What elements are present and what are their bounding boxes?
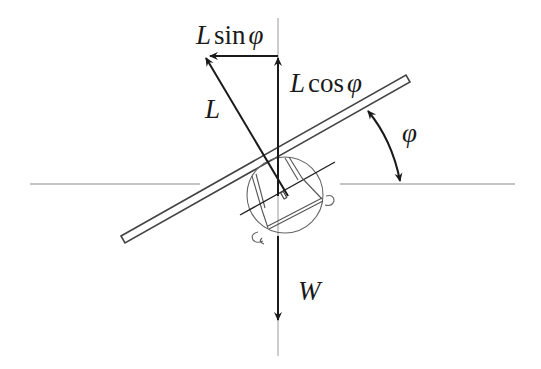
- bank-angle-label: φ: [402, 118, 417, 148]
- lift-vertical-label: Lcosφ: [289, 68, 362, 98]
- bank-angle-arc: [368, 111, 400, 181]
- lift-label: L: [204, 94, 220, 124]
- lift-horizontal-label: Lsinφ: [195, 20, 264, 50]
- banked-turn-diagram: Lsinφ Lcosφ L φ W: [0, 0, 541, 369]
- weight-label: W: [298, 276, 323, 306]
- lift-vector: [206, 58, 288, 196]
